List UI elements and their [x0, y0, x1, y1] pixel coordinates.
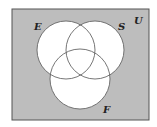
set-s-label: S	[118, 21, 125, 32]
venn-diagram: E S U F	[0, 0, 157, 127]
set-f-label: F	[102, 104, 111, 115]
set-e-label: E	[33, 21, 42, 32]
universe-label: U	[134, 15, 144, 26]
